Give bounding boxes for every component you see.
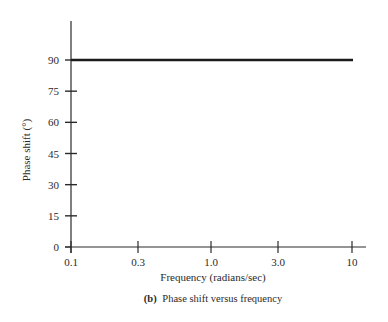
y-tick-label: 45 xyxy=(48,148,60,160)
x-tick-label: 10 xyxy=(347,256,359,268)
x-axis-title: Frequency (radians/sec) xyxy=(160,271,266,284)
y-tick-label: 90 xyxy=(48,54,60,66)
x-tick-label: 0.1 xyxy=(64,256,78,268)
y-axis-title: Phase shift (°) xyxy=(20,118,33,181)
figure-caption: (b) Phase shift versus frequency xyxy=(144,293,283,305)
x-tick-label: 0.3 xyxy=(131,256,145,268)
caption-text: Phase shift versus frequency xyxy=(162,293,283,304)
y-axis: 0153045607590 xyxy=(48,21,77,253)
x-tick-label: 1.0 xyxy=(204,256,218,268)
y-tick-label: 30 xyxy=(48,179,60,191)
x-tick-label: 3.0 xyxy=(271,256,285,268)
caption-label: (b) xyxy=(144,293,157,305)
y-tick-label: 0 xyxy=(54,241,60,253)
y-tick-label: 15 xyxy=(48,210,60,222)
x-axis: 0.10.31.03.010 xyxy=(64,241,366,268)
y-tick-label: 60 xyxy=(48,116,60,128)
y-tick-label: 75 xyxy=(48,85,60,97)
phase-shift-chart: 0153045607590 0.10.31.03.010 Phase shift… xyxy=(0,0,388,322)
